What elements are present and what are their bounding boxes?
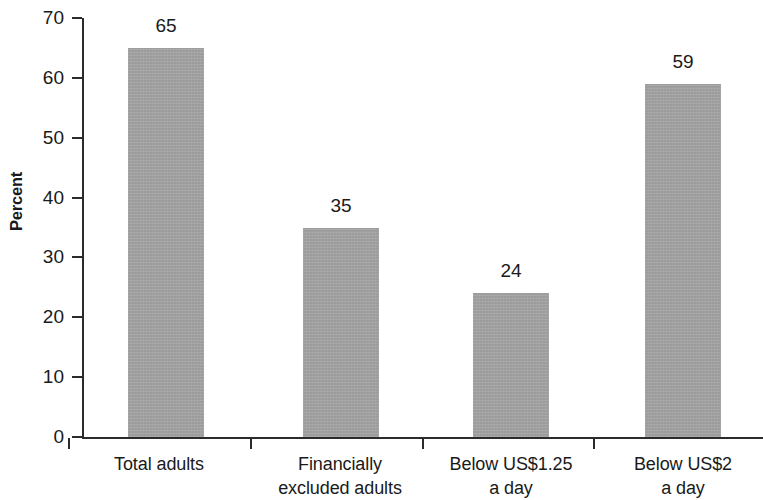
x-axis-label-line: Below US$2: [583, 452, 763, 476]
bar: [303, 228, 379, 438]
y-axis-tick: [72, 197, 82, 199]
x-axis-tick: [250, 438, 252, 449]
bar-value-label: 35: [273, 196, 409, 215]
y-axis-tick: [72, 376, 82, 378]
y-axis-tick-label: 10: [0, 367, 64, 386]
bar: [473, 293, 549, 437]
y-axis-tick: [72, 77, 82, 79]
x-axis-category-label: Total adults: [59, 452, 259, 476]
x-axis-tick: [593, 438, 595, 449]
x-axis-label-line: a day: [583, 476, 763, 500]
x-axis-label-line: Total adults: [59, 452, 259, 476]
x-axis-tick: [422, 438, 424, 449]
y-axis-tick-label: 30: [0, 247, 64, 266]
y-axis-tick: [72, 256, 82, 258]
y-axis-tick-label: 20: [0, 307, 64, 326]
y-axis-tick-label: 0: [0, 427, 64, 446]
y-axis-tick-label: 60: [0, 68, 64, 87]
y-axis-line: [82, 18, 84, 438]
bar: [645, 84, 721, 437]
bar: [128, 48, 204, 437]
bar-value-label: 59: [615, 52, 751, 71]
bar-value-label: 65: [98, 16, 234, 35]
y-axis-tick: [72, 436, 82, 438]
y-axis-tick-label: 70: [0, 8, 64, 27]
bar-chart: Percent 706050403020100 65352459 Total a…: [0, 0, 763, 500]
y-axis-tick: [72, 137, 82, 139]
y-axis-tick: [72, 316, 82, 318]
y-axis-tick-label: 40: [0, 188, 64, 207]
x-axis-tick: [68, 438, 70, 449]
y-axis-tick: [72, 17, 82, 19]
bar-value-label: 24: [443, 261, 579, 280]
x-axis-category-label: Below US$2a day: [583, 452, 763, 500]
y-axis-tick-label: 50: [0, 128, 64, 147]
